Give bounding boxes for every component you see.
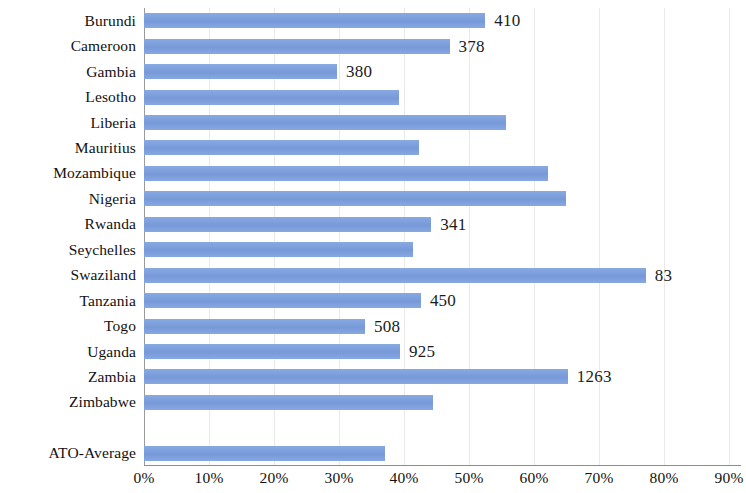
x-tick-70pct: 70% bbox=[584, 470, 613, 486]
category-label-liberia: Liberia bbox=[0, 115, 136, 131]
bar-row: 925 bbox=[144, 344, 729, 359]
bar-row: 378 bbox=[144, 39, 729, 54]
x-tick-90pct: 90% bbox=[714, 470, 743, 486]
bar-row: 1263 bbox=[144, 369, 729, 384]
bar bbox=[144, 39, 450, 54]
bar-value-label: 925 bbox=[409, 343, 435, 360]
bar bbox=[144, 64, 337, 79]
bar-row: 508 bbox=[144, 319, 729, 334]
category-label-gambia: Gambia bbox=[0, 64, 136, 80]
bar bbox=[144, 13, 485, 28]
x-tick-0pct: 0% bbox=[133, 470, 154, 486]
value-axis-tick-labels: 0%10%20%30%40%50%60%70%80%90% bbox=[144, 470, 729, 493]
bar-row bbox=[144, 242, 729, 257]
x-tick-60pct: 60% bbox=[519, 470, 548, 486]
category-axis-line bbox=[144, 465, 741, 466]
bar-row: 450 bbox=[144, 293, 729, 308]
bar bbox=[144, 319, 365, 334]
category-label-cameroon: Cameroon bbox=[0, 38, 136, 54]
bar-value-label: 380 bbox=[346, 63, 372, 80]
bar bbox=[144, 115, 506, 130]
bar bbox=[144, 140, 419, 155]
category-label-uganda: Uganda bbox=[0, 344, 136, 360]
x-tick-40pct: 40% bbox=[389, 470, 418, 486]
category-label-seychelles: Seychelles bbox=[0, 242, 136, 258]
bar bbox=[144, 242, 413, 257]
bar-value-label: 450 bbox=[430, 292, 456, 309]
bar-row bbox=[144, 115, 729, 130]
bar-value-label: 83 bbox=[655, 267, 672, 284]
bar bbox=[144, 344, 400, 359]
category-label-mozambique: Mozambique bbox=[0, 165, 136, 181]
gridline-90pct bbox=[729, 8, 730, 466]
bar-row: 341 bbox=[144, 217, 729, 232]
category-label-togo: Togo bbox=[0, 318, 136, 334]
bar-row: 83 bbox=[144, 268, 729, 283]
bar bbox=[144, 369, 568, 384]
category-label-burundi: Burundi bbox=[0, 13, 136, 29]
bar-rows: 410378380341834505089251263 bbox=[144, 8, 729, 466]
bar-row bbox=[144, 140, 729, 155]
bar-row: 410 bbox=[144, 13, 729, 28]
bar bbox=[144, 268, 646, 283]
bar bbox=[144, 217, 431, 232]
category-label-tanzania: Tanzania bbox=[0, 293, 136, 309]
x-tick-10pct: 10% bbox=[194, 470, 223, 486]
bar bbox=[144, 395, 433, 410]
x-tick-20pct: 20% bbox=[259, 470, 288, 486]
category-label-ato-average: ATO-Average bbox=[0, 445, 136, 461]
category-label-zimbabwe: Zimbabwe bbox=[0, 394, 136, 410]
category-label-zambia: Zambia bbox=[0, 369, 136, 385]
bar bbox=[144, 90, 399, 105]
bar bbox=[144, 166, 548, 181]
bar bbox=[144, 446, 385, 461]
category-label-swaziland: Swaziland bbox=[0, 267, 136, 283]
bar-chart: BurundiCameroonGambiaLesothoLiberiaMauri… bbox=[0, 0, 746, 493]
bar-value-label: 410 bbox=[494, 12, 520, 29]
category-label-rwanda: Rwanda bbox=[0, 216, 136, 232]
bar bbox=[144, 293, 421, 308]
bar-row: 380 bbox=[144, 64, 729, 79]
bar-row bbox=[144, 395, 729, 410]
bar-row bbox=[144, 446, 729, 461]
category-label-nigeria: Nigeria bbox=[0, 191, 136, 207]
category-axis-labels: BurundiCameroonGambiaLesothoLiberiaMauri… bbox=[0, 8, 136, 466]
bar-value-label: 341 bbox=[440, 216, 466, 233]
bar-row bbox=[144, 191, 729, 206]
bar-row bbox=[144, 166, 729, 181]
x-tick-50pct: 50% bbox=[454, 470, 483, 486]
plot-area: 410378380341834505089251263 bbox=[144, 8, 729, 466]
category-label-mauritius: Mauritius bbox=[0, 140, 136, 156]
x-tick-80pct: 80% bbox=[649, 470, 678, 486]
bar-value-label: 1263 bbox=[577, 368, 612, 385]
bar-row bbox=[144, 90, 729, 105]
bar-value-label: 378 bbox=[459, 38, 485, 55]
x-tick-30pct: 30% bbox=[324, 470, 353, 486]
bar bbox=[144, 191, 566, 206]
bar-value-label: 508 bbox=[374, 318, 400, 335]
category-label-lesotho: Lesotho bbox=[0, 89, 136, 105]
